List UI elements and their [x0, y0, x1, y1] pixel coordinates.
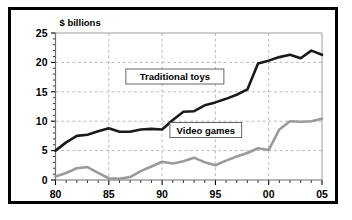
chart-figure: 0510152025808590950005$ billionsTraditio… [0, 0, 352, 220]
y-tick-label: 15 [36, 86, 48, 98]
series-label: Traditional toys [126, 69, 224, 84]
x-tick-label: 05 [316, 188, 328, 200]
line-chart: 0510152025808590950005$ billionsTraditio… [0, 0, 352, 220]
x-tick-label: 00 [263, 188, 275, 200]
y-tick-label: 10 [36, 115, 48, 127]
series-label-text: Video games [177, 125, 235, 136]
y-tick-label: 5 [42, 144, 48, 156]
x-tick-label: 80 [50, 188, 62, 200]
x-tick-label: 85 [103, 188, 115, 200]
x-tick-label: 95 [210, 188, 222, 200]
series-label-text: Traditional toys [140, 71, 210, 82]
y-tick-label: 25 [36, 27, 48, 39]
x-tick-label: 90 [156, 188, 168, 200]
plot-area-background [56, 33, 323, 180]
y-tick-label: 20 [36, 56, 48, 68]
series-label: Video games [170, 123, 242, 138]
y-axis-title: $ billions [60, 17, 101, 28]
y-tick-label: 0 [42, 174, 48, 186]
